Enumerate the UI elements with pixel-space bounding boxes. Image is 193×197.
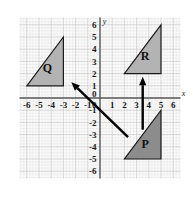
x-tick-label: 1 (110, 100, 115, 110)
y-tick-label: -5 (89, 154, 97, 164)
shape-label-r: R (141, 49, 150, 63)
x-tick-label: 2 (122, 100, 127, 110)
x-tick-label: 6 (171, 100, 176, 110)
y-tick-label: 2 (92, 69, 97, 79)
x-tick-label: 3 (134, 100, 139, 110)
y-axis-label: y (102, 17, 107, 26)
y-tick-label: 6 (92, 20, 97, 30)
coordinate-grid-svg: -6-5-4-3-2-10123456654321-1-2-3-4-5-60xy… (0, 0, 193, 197)
y-tick-label: -2 (89, 118, 97, 128)
y-tick-label: 5 (92, 32, 97, 42)
y-tick-label: -3 (89, 130, 97, 140)
x-tick-label: -5 (35, 100, 43, 110)
y-tick-label: 3 (92, 57, 97, 67)
y-tick-label: -4 (89, 142, 97, 152)
x-tick-label: -2 (72, 100, 80, 110)
y-tick-label: -6 (89, 166, 97, 176)
origin-label: 0 (92, 89, 97, 99)
x-tick-label: 5 (159, 100, 164, 110)
shape-label-q: Q (43, 61, 52, 75)
x-tick-label: -6 (23, 100, 31, 110)
y-tick-label: 4 (92, 44, 97, 54)
shape-label-p: P (141, 137, 148, 151)
x-tick-label: 4 (147, 100, 152, 110)
x-tick-label: -3 (60, 100, 68, 110)
plot-area: -6-5-4-3-2-10123456654321-1-2-3-4-5-60xy… (0, 0, 193, 197)
x-tick-label: -4 (47, 100, 55, 110)
x-axis-label: x (181, 89, 186, 98)
coordinate-plane-figure: -6-5-4-3-2-10123456654321-1-2-3-4-5-60xy… (0, 0, 193, 197)
